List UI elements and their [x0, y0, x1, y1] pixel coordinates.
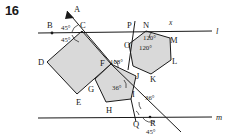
line-m: [38, 117, 212, 118]
label-Q: Q: [133, 119, 139, 129]
angle-C-upper: 45°: [61, 24, 71, 31]
label-L: L: [172, 56, 177, 66]
angle-hexagon-upper-120: 120°: [143, 34, 156, 41]
label-N: N: [143, 20, 149, 30]
angle-hexagon-lower-120: 120°: [139, 44, 152, 51]
angle-pentagon-36: 36°: [112, 84, 122, 91]
point-B-dot: [51, 32, 54, 35]
angle-F-108: 108°: [110, 58, 123, 65]
label-M: M: [170, 35, 178, 45]
label-I: I: [132, 89, 135, 99]
angle-I-36: 36°: [145, 94, 155, 101]
angle-R-45: 45°: [146, 128, 156, 135]
arc-Q: [136, 111, 139, 115]
arc-I-36: [139, 102, 141, 109]
label-K: K: [150, 74, 157, 84]
line-l: [38, 31, 212, 33]
label-C: C: [80, 20, 86, 30]
angle-C-lower: 45°: [61, 36, 71, 43]
label-F: F: [100, 58, 105, 68]
label-O: O: [124, 40, 130, 50]
label-A: A: [74, 4, 81, 14]
label-P: P: [127, 20, 132, 30]
label-B: B: [47, 20, 53, 30]
label-line-m: m: [216, 112, 222, 122]
label-E: E: [76, 97, 81, 107]
label-line-l: l: [216, 26, 219, 36]
figure-page: 16 A B C D: [0, 0, 245, 138]
label-D: D: [38, 57, 44, 67]
geometry-figure: A B C D E F G H I J K L M N O P Q R l m …: [0, 0, 245, 138]
label-G: G: [88, 84, 94, 94]
label-unknown-x: x: [168, 18, 173, 27]
arc-C-upper: [72, 25, 78, 32]
arrowhead-A: [65, 11, 74, 19]
label-R: R: [150, 118, 156, 128]
label-J: J: [136, 71, 140, 81]
label-H: H: [106, 105, 112, 115]
